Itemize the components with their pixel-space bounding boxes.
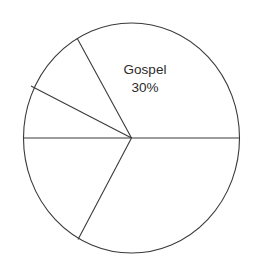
pie-chart-figure: Gospel 30% — [0, 0, 255, 268]
pie-chart-svg: Gospel 30% — [0, 0, 255, 268]
slice-value-gospel: 30% — [131, 80, 158, 95]
slice-label-gospel: Gospel — [124, 62, 167, 77]
